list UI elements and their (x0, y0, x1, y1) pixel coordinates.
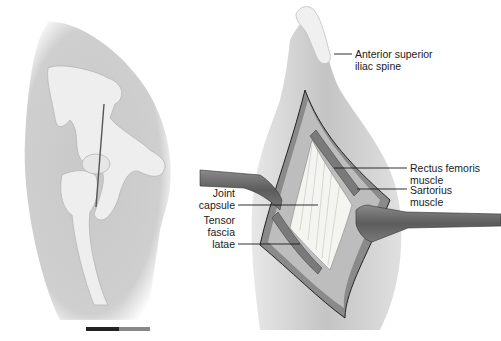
label-anterior-superior-iliac-spine: Anterior superior iliac spine (355, 48, 433, 72)
label-tensor-fascia-latae: Tensor fascia latae (203, 214, 235, 250)
left-panel-hip-lateral (0, 22, 200, 330)
retractor-right (356, 205, 501, 242)
label-joint-capsule: Joint capsule (199, 187, 235, 211)
label-sartorius-muscle: Sartorius muscle (410, 184, 452, 208)
label-rectus-femoris-muscle: Rectus femoris muscle (410, 162, 480, 186)
femoral-head (82, 154, 110, 174)
scale-bar-dark (86, 327, 119, 331)
scale-bar-light (119, 327, 150, 331)
